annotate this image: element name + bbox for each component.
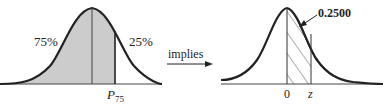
implies-label: implies (168, 47, 204, 61)
arrowhead-icon (205, 61, 213, 67)
percentile-label: P75 (106, 87, 124, 104)
left-normal-curve-panel: 75% 25% P75 (0, 8, 184, 104)
right-normal-curve-panel: 0.2500 0 z (221, 0, 383, 101)
area-value-label: 0.2500 (318, 6, 351, 20)
mean-zero-label: 0 (284, 87, 290, 101)
right-area-label: 25% (129, 34, 153, 49)
implies-arrow: implies (167, 47, 213, 67)
z-label: z (307, 87, 313, 101)
left-area-label: 75% (34, 34, 58, 49)
normal-distribution-figure: 75% 25% P75 implies 0.2500 0 z (0, 0, 386, 104)
